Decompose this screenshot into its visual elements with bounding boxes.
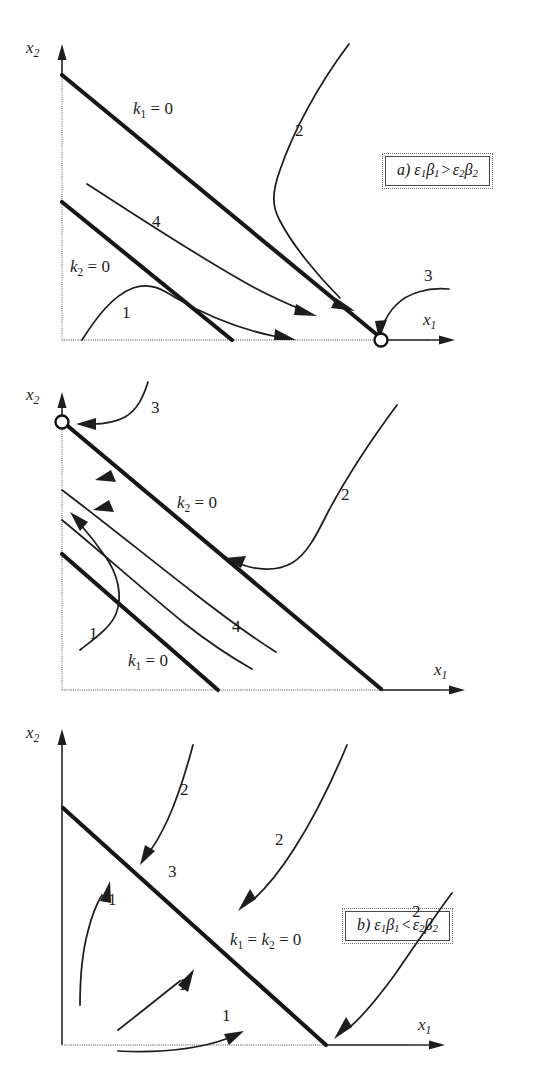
trajectory-1-a [80,881,111,1005]
y-axis-label: x2 [25,385,40,406]
panel-b-plot: x2 x1 k2 = 0 k1 = 0 2 4 1 3 [0,360,551,705]
panel-c-plot: x2 x1 k1 = k2 = 0 3 2 2 2 1 1 1 [0,705,551,1083]
nullcline-k1-label: k1 = 0 [128,651,168,672]
trajectory-2 [225,405,397,569]
trajectory-2-b-label: 2 [275,830,284,849]
x-axis-arrowhead [449,686,465,695]
trajectory-2-b-arrowhead [238,889,256,911]
pointer-3-label: 3 [424,266,433,285]
pointer-3-arrowhead [76,418,96,430]
x-axis-arrowhead [439,336,455,345]
equilibrium-point [56,416,69,429]
y-axis-arrowhead [58,392,67,408]
phase-plane-figure: x2 x1 k1 = 0 k2 = 0 2 4 1 3 a) ε1β1>ε2β2 [0,0,551,1083]
y-axis-label: x2 [25,38,40,59]
x-axis-label: x1 [433,660,447,681]
trajectory-2-c-label: 2 [412,902,421,921]
pointer-3 [76,382,148,430]
trajectory-2-b [238,745,347,911]
panel-a-axes [58,44,456,345]
x-axis-arrowhead [429,1041,445,1050]
nullcline-k1-k2 [63,808,326,1045]
trajectory-2-c-arrowhead [334,1017,352,1039]
trajectory-1-c-label: 1 [222,1006,231,1025]
pointer-3 [375,289,449,340]
nullcline-k1-k2-label: k1 = k2 = 0 [230,930,301,951]
trajectory-4-label: 4 [232,617,241,636]
trajectory-2-label: 2 [295,121,304,140]
trajectory-1-label: 1 [89,624,98,643]
trajectory-1-c [118,1031,244,1052]
trajectory-1-arrowhead [274,329,296,340]
panel-a-caption-beta1: β [426,161,434,178]
x-axis-label: x1 [417,1015,431,1036]
panel-a-caption-operator: > [440,161,453,178]
nullcline-k2 [63,422,381,689]
nullcline-k1 [62,75,381,338]
nullcline-line-label-3: 3 [168,862,177,881]
trajectory-1-label: 1 [122,303,131,322]
trajectory-4b-arrowhead [93,500,114,512]
panel-c: x2 x1 k1 = k2 = 0 3 2 2 2 1 1 1 c) ε1β1=… [0,705,551,1083]
panel-b: x2 x1 k2 = 0 k1 = 0 2 4 1 3 b) ε1β1<ε2β2 [0,360,551,705]
trajectory-4b [62,500,252,669]
y-axis-arrowhead [58,729,67,745]
trajectory-2-label: 2 [341,485,350,504]
trajectory-1-b-label: 1 [178,975,187,994]
trajectory-1 [82,286,296,340]
panel-a-caption: a) ε1β1>ε2β2 [385,156,490,186]
panel-a-caption-letter: a) [397,161,410,178]
trajectory-2-a-label: 2 [180,780,189,799]
panel-b-axes [58,392,466,695]
pointer-3-label: 3 [151,398,160,417]
x-axis-label: x1 [422,310,436,331]
equilibrium-point [375,334,388,347]
trajectory-4-arrowhead [95,470,116,482]
trajectory-4-arrowhead [294,304,317,316]
trajectory-4-label: 4 [152,212,161,231]
panel-a: x2 x1 k1 = 0 k2 = 0 2 4 1 3 a) ε1β1>ε2β2 [0,0,551,360]
nullcline-k1-label: k1 = 0 [133,99,173,120]
trajectory-2-a [140,745,193,865]
panel-a-caption-beta1-sub: 1 [434,167,440,179]
trajectory-2-c [334,893,452,1039]
nullcline-k2-label: k2 = 0 [177,493,217,514]
trajectory-1-a-label: 1 [108,890,117,909]
trajectory-2 [274,44,355,311]
y-axis-label: x2 [25,723,40,744]
nullcline-k2-label: k2 = 0 [70,257,110,278]
y-axis-arrowhead [58,44,67,60]
panel-a-caption-beta2-sub: 2 [472,167,478,179]
trajectory-1-c-arrowhead [224,1031,244,1045]
